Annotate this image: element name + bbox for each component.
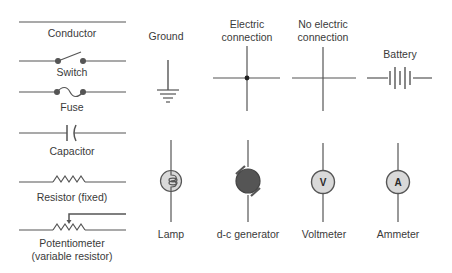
resistor-label: Resistor (fixed): [37, 191, 108, 204]
dc-generator-icon: [236, 140, 260, 222]
voltmeter-label: Voltmeter: [302, 228, 346, 241]
no-electric-connection-label-line2: connection: [298, 31, 349, 44]
ground-icon: [157, 60, 179, 102]
lamp-label: Lamp: [158, 228, 184, 241]
resistor-icon: [19, 176, 126, 182]
switch-icon: [19, 52, 126, 63]
no-electric-connection-icon: [292, 47, 356, 111]
lamp-icon: [161, 140, 182, 222]
battery-label: Battery: [383, 48, 416, 61]
potentiometer-label: Potentiometer (variable resistor): [31, 237, 112, 262]
dc-generator-label: d-c generator: [217, 228, 279, 241]
conductor-label: Conductor: [48, 27, 96, 40]
voltmeter-letter: V: [320, 177, 327, 188]
electric-connection-label: Electric connection: [222, 18, 273, 43]
fuse-icon: [19, 88, 126, 97]
symbol-chart: V A Conductor Switch Fuse Capacitor Resi…: [0, 0, 452, 273]
potentiometer-label-line2: (variable resistor): [31, 250, 112, 263]
ammeter-label: Ammeter: [377, 228, 420, 241]
capacitor-icon: [19, 125, 126, 141]
switch-label: Switch: [57, 66, 88, 79]
potentiometer-icon: [19, 214, 126, 230]
electric-connection-label-line2: connection: [222, 31, 273, 44]
ammeter-letter: A: [394, 177, 401, 188]
no-electric-connection-label-line1: No electric: [298, 18, 349, 31]
ground-label: Ground: [148, 30, 183, 43]
potentiometer-label-line1: Potentiometer: [31, 237, 112, 250]
capacitor-label: Capacitor: [50, 145, 95, 158]
electric-connection-label-line1: Electric: [222, 18, 273, 31]
electric-connection-icon: [213, 46, 280, 111]
battery-icon: [367, 67, 432, 89]
no-electric-connection-label: No electric connection: [298, 18, 349, 43]
fuse-label: Fuse: [60, 101, 83, 114]
